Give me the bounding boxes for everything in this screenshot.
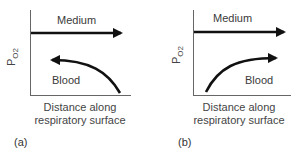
panel-a-x-axis-label-line1: Distance along	[20, 101, 140, 114]
panel-b-y-axis-subscript: O2	[176, 46, 185, 57]
panel-a-medium-label: Medium	[57, 14, 96, 26]
panel-b-letter: (b)	[178, 136, 191, 148]
panel-a-blood-label: Blood	[52, 74, 80, 86]
panel-a-y-axis-subscript: O2	[11, 48, 20, 59]
panel-b-x-axis-label: Distance along respiratory surface	[179, 101, 299, 127]
panel-a-y-axis-symbol: P	[5, 59, 17, 66]
panel-a-x-axis-label-line2: respiratory surface	[20, 114, 140, 127]
panel-b-blood-label: Blood	[245, 74, 273, 86]
panel-b-x-axis-label-line2: respiratory surface	[179, 114, 299, 127]
panel-b-y-axis-symbol: P	[170, 57, 182, 64]
panel-a-y-axis-label: PO2	[5, 48, 20, 66]
diagram-figure: Medium Blood PO2 Distance along respirat…	[0, 0, 308, 156]
panel-b-medium-label: Medium	[213, 12, 252, 24]
panel-a-letter: (a)	[14, 136, 27, 148]
panel-b-x-axis-label-line1: Distance along	[179, 101, 299, 114]
panel-a-x-axis-label: Distance along respiratory surface	[20, 101, 140, 127]
panel-b-y-axis-label: PO2	[170, 46, 185, 64]
